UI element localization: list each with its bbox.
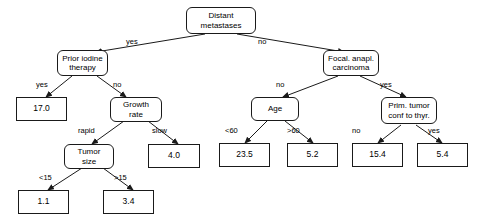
- leaf-3-4[interactable]: 3.4: [103, 190, 154, 214]
- edge-growth-tumor-size: [92, 121, 124, 144]
- leaf-1-1[interactable]: 1.1: [18, 190, 69, 214]
- edge-label-focal-anapl-no: no: [276, 81, 284, 89]
- node-age[interactable]: Age: [251, 97, 299, 121]
- decision-tree-diagram: Distant metastases Prior iodine therapy …: [0, 0, 478, 224]
- leaf-23-5[interactable]: 23.5: [219, 143, 270, 167]
- node-focal-anapl-carcinoma[interactable]: Focal. anapl. carcinoma: [323, 50, 379, 76]
- node-distant-metastases[interactable]: Distant metastases: [186, 7, 256, 34]
- edge-label-age-lt60: <60: [225, 127, 238, 135]
- node-prior-iodine-therapy[interactable]: Prior iodine therapy: [57, 50, 108, 76]
- node-line: Growth: [123, 100, 149, 110]
- leaf-value: 5.4: [437, 150, 449, 160]
- edge-age-leaf235: [245, 121, 267, 143]
- leaf-value: 23.5: [236, 150, 253, 160]
- edge-label-tumor-size-gt15: >15: [114, 174, 127, 182]
- edge-root-prior-iodine: [96, 34, 205, 52]
- edge-prim-tumor-leaf154: [378, 125, 401, 143]
- edge-focal-anapl-age: [283, 76, 338, 97]
- edge-label-tumor-size-lt15: <15: [39, 174, 52, 182]
- node-line: Tumor: [78, 147, 101, 157]
- leaf-4-0[interactable]: 4.0: [148, 144, 200, 168]
- edge-label-prim-tumor-yes: yes: [428, 127, 440, 135]
- leaf-value: 17.0: [33, 104, 50, 114]
- edge-prior-iodine-leaf17: [46, 76, 72, 97]
- leaf-5-4[interactable]: 5.4: [417, 143, 468, 167]
- node-line: conf to thyr.: [388, 111, 429, 121]
- edge-tumor-size-leaf11: [48, 168, 82, 190]
- node-line: Age: [268, 104, 282, 114]
- node-line: Prim. tumor: [388, 101, 429, 111]
- node-line: Distant: [209, 11, 234, 21]
- node-growth-rate[interactable]: Growth rate: [110, 97, 162, 122]
- leaf-17-0[interactable]: 17.0: [16, 97, 67, 121]
- leaf-value: 3.4: [123, 197, 135, 207]
- edge-label-prim-tumor-no: no: [352, 127, 360, 135]
- edge-label-growth-rapid: rapid: [78, 127, 95, 135]
- leaf-value: 4.0: [168, 151, 180, 161]
- edge-label-root-yes: yes: [126, 38, 138, 46]
- edge-prior-iodine-growth: [97, 76, 126, 97]
- leaf-value: 5.2: [307, 150, 319, 160]
- edge-label-prior-iodine-yes: yes: [36, 81, 48, 89]
- edge-label-prior-iodine-no: no: [113, 81, 121, 89]
- edge-label-root-no: no: [258, 38, 266, 46]
- node-line: size: [82, 157, 96, 167]
- edge-label-growth-slow: slow: [152, 127, 167, 135]
- leaf-5-2[interactable]: 5.2: [287, 143, 338, 167]
- node-tumor-size[interactable]: Tumor size: [64, 144, 114, 169]
- leaf-value: 15.4: [369, 150, 386, 160]
- leaf-15-4[interactable]: 15.4: [352, 143, 403, 167]
- edge-label-age-gt60: >60: [287, 127, 300, 135]
- node-line: therapy: [69, 63, 96, 73]
- node-line: rate: [129, 110, 143, 120]
- node-prim-tumor-conf-to-thyr[interactable]: Prim. tumor conf to thyr.: [381, 97, 437, 124]
- node-line: metastases: [201, 21, 242, 31]
- leaf-value: 1.1: [38, 197, 50, 207]
- edge-label-focal-anapl-yes: yes: [380, 81, 392, 89]
- node-line: Focal. anapl.: [328, 54, 374, 64]
- node-line: carcinoma: [333, 63, 370, 73]
- node-line: Prior iodine: [62, 54, 102, 64]
